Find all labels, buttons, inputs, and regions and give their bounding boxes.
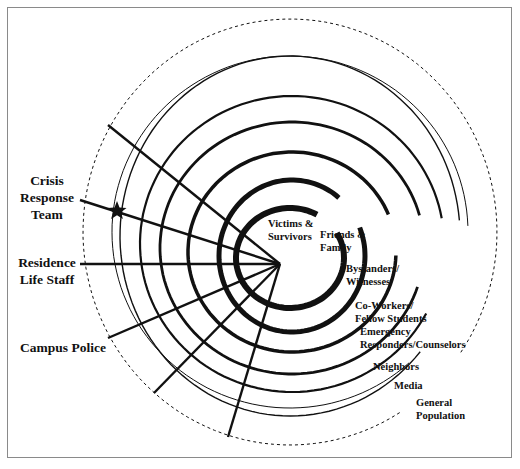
ring-label: Media bbox=[394, 380, 423, 393]
ring-label: Neighbors bbox=[373, 361, 419, 374]
responder-label: CrisisResponseTeam bbox=[14, 173, 80, 224]
responder-label-line: Campus Police bbox=[20, 340, 100, 357]
ray-line bbox=[108, 125, 280, 264]
ring-label-line: Media bbox=[394, 380, 423, 393]
ring-label: Friends &Family bbox=[320, 229, 366, 254]
ring-label-line: Witnesses bbox=[346, 276, 399, 289]
responder-rays bbox=[80, 125, 280, 437]
responder-label-line: Life Staff bbox=[14, 272, 80, 289]
ring-label-line: General bbox=[416, 397, 465, 410]
ring-label-line: Friends & bbox=[320, 229, 366, 242]
ray-line bbox=[108, 264, 280, 338]
star-icon bbox=[108, 201, 127, 219]
responder-label-line: Residence bbox=[14, 255, 80, 272]
ring-label-line: Emergency bbox=[360, 326, 466, 339]
ring-label-line: Responders/Counselors bbox=[360, 339, 466, 352]
responder-label-line: Team bbox=[14, 207, 80, 224]
ring-label-line: Co-Workers/ bbox=[355, 300, 426, 313]
ring-label: Co-Workers/Fellow Students bbox=[355, 300, 426, 325]
ring-label-line: Population bbox=[416, 410, 465, 423]
ring-label: Bystanders/Witnesses bbox=[346, 263, 399, 288]
ring-label-line: Survivors bbox=[268, 231, 313, 244]
ring-label: EmergencyResponders/Counselors bbox=[360, 326, 466, 351]
responder-label: Campus Police bbox=[20, 340, 100, 357]
star-icon bbox=[108, 201, 127, 219]
ring-label: GeneralPopulation bbox=[416, 397, 465, 422]
ring-label-line: Neighbors bbox=[373, 361, 419, 374]
responder-label-line: Crisis bbox=[14, 173, 80, 190]
ring-label: Victims &Survivors bbox=[268, 218, 313, 243]
responder-label: ResidenceLife Staff bbox=[14, 255, 80, 289]
ring-label-line: Bystanders/ bbox=[346, 263, 399, 276]
ring-label-line: Fellow Students bbox=[355, 313, 426, 326]
ring-label-line: Victims & bbox=[268, 218, 313, 231]
responder-label-line: Response bbox=[14, 190, 80, 207]
ring-label-line: Family bbox=[320, 242, 366, 255]
